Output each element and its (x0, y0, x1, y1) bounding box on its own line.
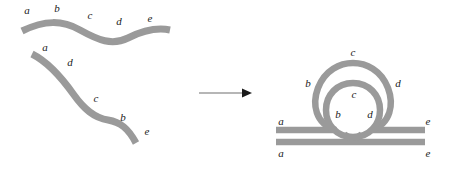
inverted-label-c: c (94, 92, 99, 104)
transformation-arrow (199, 89, 252, 98)
flank-label-e-lower: e (426, 147, 431, 159)
loop-base-crossover (344, 134, 362, 138)
inner-loop-label-b: b (335, 108, 341, 120)
strand-label-a: a (24, 4, 30, 16)
flank-label-a-lower: a (278, 147, 284, 159)
strand-label-d: d (116, 15, 122, 27)
inverted-sequence-strand (32, 54, 136, 143)
inverted-label-b: b (120, 111, 126, 123)
inversion-loop-group (276, 63, 425, 142)
arrow-head-icon (242, 89, 252, 98)
flank-label-e-upper: e (426, 115, 431, 127)
figure-canvas: a b c d e a d c b e (0, 0, 454, 169)
inverted-strand-labels: a d c b e (42, 41, 149, 137)
outer-loop-label-c: c (351, 46, 356, 58)
normal-sequence-strand (22, 23, 170, 42)
inner-loop-labels: c b d (335, 88, 373, 120)
outer-loop-label-d: d (395, 77, 401, 89)
strand-label-b: b (54, 2, 60, 14)
flank-label-a-upper: a (278, 115, 284, 127)
outer-loop-label-b: b (305, 77, 311, 89)
inversion-loop-figure: a b c d e a d c b e (0, 0, 454, 169)
inner-loop-label-c: c (352, 88, 357, 100)
inner-loop-label-d: d (367, 108, 373, 120)
strand-label-e: e (148, 12, 153, 24)
inverted-label-d: d (67, 56, 73, 68)
inverted-label-a: a (42, 41, 48, 53)
strand-label-c: c (88, 9, 93, 21)
inverted-label-e: e (145, 125, 150, 137)
